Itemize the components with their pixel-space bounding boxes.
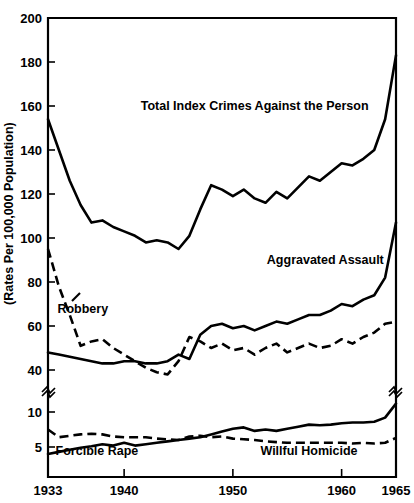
y-tick-label: 180 (20, 55, 42, 70)
robbery-leader-line (72, 293, 80, 301)
y-tick-label: 140 (20, 143, 42, 158)
y-tick-label: 60 (28, 319, 42, 334)
y-tick-label: 200 (20, 11, 42, 26)
x-tick-label: 1940 (110, 483, 139, 498)
series-label-aggravated-assault: Aggravated Assault (267, 253, 385, 267)
y-axis-title: (Rates Per 100,000 Population) (2, 122, 16, 305)
plot-frame (48, 18, 396, 477)
y-tick-label: 100 (20, 231, 42, 246)
crime-rates-line-chart: (Rates Per 100,000 Population) 200180160… (0, 0, 414, 503)
y-tick-label: 5 (35, 440, 42, 455)
x-tick-label: 1965 (382, 483, 411, 498)
x-tick-label: 1933 (34, 483, 63, 498)
x-axis-ticks: 19331940195019601965 (34, 469, 411, 498)
y-tick-label: 10 (28, 405, 42, 420)
series-line-aggravated-assault (48, 223, 396, 364)
series-annotations: Total Index Crimes Against the PersonAgg… (56, 99, 385, 457)
series-label-willful-homicide: Willful Homicide (260, 444, 357, 458)
series-label-forcible-rape: Forcible Rape (56, 444, 139, 458)
y-tick-label: 80 (28, 275, 42, 290)
series-label-robbery: Robbery (57, 302, 108, 316)
series-line-total-index-crimes-against-the-person (48, 55, 396, 249)
y-tick-label: 160 (20, 99, 42, 114)
series-label-total-index-crimes-against-the-person: Total Index Crimes Against the Person (141, 99, 369, 113)
y-tick-label: 120 (20, 187, 42, 202)
chart-canvas: (Rates Per 100,000 Population) 200180160… (0, 0, 414, 503)
y-tick-label: 40 (28, 363, 42, 378)
y-axis-ticks: 200180160140120100806040105 (20, 11, 55, 455)
x-tick-label: 1960 (327, 483, 356, 498)
x-tick-label: 1950 (218, 483, 247, 498)
